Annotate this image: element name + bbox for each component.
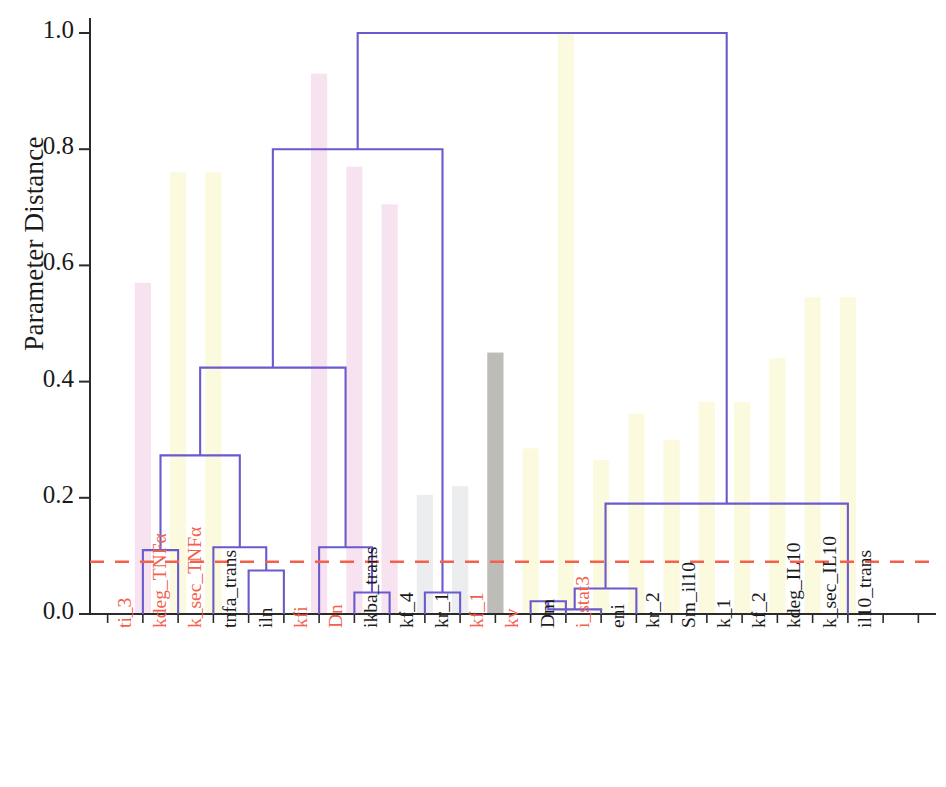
leaf-background-bar (699, 402, 715, 614)
x-axis-leaf-label: k_sec_TNFα (185, 527, 205, 628)
x-axis-leaf-label: iln (256, 607, 276, 628)
x-axis-leaf-label: kf_2 (749, 592, 769, 628)
x-axis-leaf-label: k_sec_IL10 (820, 536, 840, 628)
x-axis-leaf-label: eni (608, 604, 628, 628)
leaf-background-bar (593, 460, 609, 614)
leaf-background-bar (734, 402, 750, 614)
leaf-background-bar (382, 204, 398, 614)
x-axis-leaf-label: kr_1 (432, 592, 452, 628)
x-axis-leaf-label: kv (502, 609, 522, 629)
x-axis-leaf-label: ikba_trans (361, 547, 381, 628)
background-bars (135, 33, 856, 614)
x-axis-leaf-label: kdeg_TNFα (150, 533, 170, 628)
x-axis-leaf-label: kfi (291, 606, 311, 628)
x-axis-leaf-label: il10_trans (855, 550, 875, 628)
x-axis-leaf-label: kf_1 (467, 592, 487, 628)
leaf-background-bar (487, 353, 503, 614)
dendrogram-figure: Parameter Distance 0.00.20.40.60.81.0 ti… (0, 0, 946, 787)
x-axis-leaf-label: Dn (326, 604, 346, 628)
leaf-background-bar (558, 33, 574, 614)
dendrogram-link (358, 33, 727, 504)
leaf-background-bar (628, 414, 644, 614)
leaf-background-bar (311, 74, 327, 614)
x-axis-leaf-label: ti_3 (115, 598, 135, 628)
x-axis-leaf-label: Dm (538, 599, 558, 628)
x-axis-leaf-label: Sm_il10 (679, 562, 699, 628)
x-axis-leaf-label: kdeg_IL10 (784, 542, 804, 628)
x-axis-leaf-label: tnfa_trans (220, 550, 240, 628)
x-axis-leaf-label: k_1 (714, 599, 734, 628)
dendrogram-plot (0, 0, 946, 787)
x-axis-leaf-label: i_stat3 (573, 576, 593, 628)
x-axis-leaf-label: kf_4 (397, 592, 417, 628)
x-axis-leaf-label: kr_2 (643, 592, 663, 628)
leaf-background-bar (523, 448, 539, 614)
